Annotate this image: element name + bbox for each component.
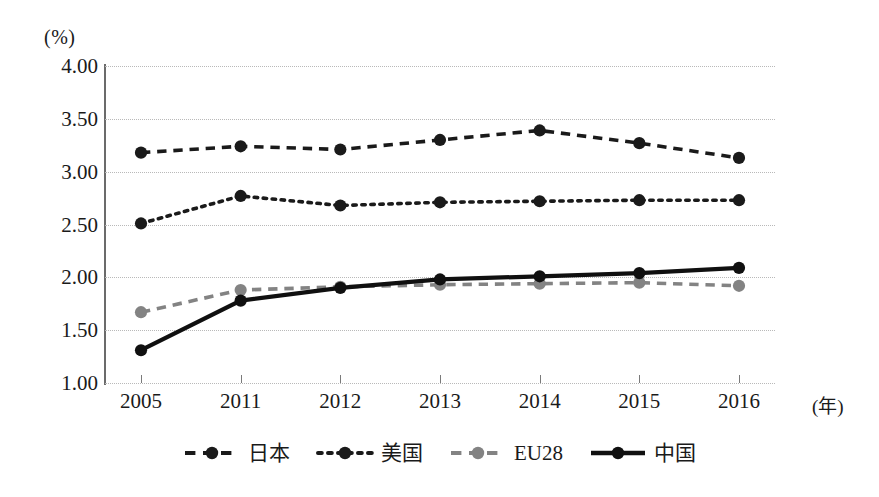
- x-axis-tick-label: 2012: [319, 389, 361, 414]
- y-axis-tick-label: 2.50: [61, 214, 98, 235]
- legend-marker-icon: [449, 444, 507, 462]
- series-2: [135, 190, 745, 230]
- chart-legend: 日本美国EU28中国: [0, 432, 879, 474]
- legend-label: 美国: [381, 443, 423, 464]
- y-axis-tick-label: 1.50: [61, 320, 98, 341]
- x-axis-tick-label: 2015: [618, 389, 660, 414]
- legend-label: 日本: [248, 443, 290, 464]
- data-point: [633, 137, 645, 149]
- data-point: [633, 267, 645, 279]
- legend-item-3[interactable]: EU28: [449, 443, 563, 464]
- data-point: [534, 124, 546, 136]
- x-axis-tick-label: 2014: [519, 389, 561, 414]
- data-point: [135, 344, 147, 356]
- data-point: [733, 152, 745, 164]
- data-point: [235, 294, 247, 306]
- data-point: [334, 143, 346, 155]
- data-point: [135, 217, 147, 229]
- x-axis-tick-label: 2016: [718, 389, 760, 414]
- data-point: [334, 199, 346, 211]
- data-point: [235, 140, 247, 152]
- x-axis-tick-labels: 2005201120122013201420152016: [0, 389, 879, 419]
- data-point: [135, 306, 147, 318]
- data-point: [633, 194, 645, 206]
- legend-marker-icon: [183, 444, 241, 462]
- data-point: [434, 134, 446, 146]
- data-point: [733, 262, 745, 274]
- legend-marker-icon: [316, 444, 374, 462]
- data-point: [235, 190, 247, 202]
- x-axis-tick-label: 2011: [220, 389, 261, 414]
- legend-label: 中国: [654, 443, 696, 464]
- series-layer: [105, 66, 775, 383]
- data-point: [434, 196, 446, 208]
- data-point: [733, 194, 745, 206]
- data-point: [534, 195, 546, 207]
- data-point: [235, 284, 247, 296]
- y-axis-tick-label: 3.00: [61, 161, 98, 182]
- legend-item-2[interactable]: 美国: [316, 443, 423, 464]
- data-point: [135, 147, 147, 159]
- legend-marker-icon: [589, 444, 647, 462]
- y-axis-tick-label: 2.00: [61, 267, 98, 288]
- x-axis-tick-label: 2013: [419, 389, 461, 414]
- plot-area: [105, 66, 775, 383]
- legend-item-4[interactable]: 中国: [589, 443, 696, 464]
- chart-figure: (%) 4.003.503.002.502.001.501.00 2005201…: [0, 0, 879, 497]
- data-point: [434, 273, 446, 285]
- data-point: [733, 280, 745, 292]
- series-4: [135, 262, 745, 357]
- series-1: [135, 124, 745, 164]
- x-axis-unit-label: (年): [812, 391, 844, 418]
- y-axis-unit-label: (%): [44, 26, 75, 49]
- x-axis-tick-label: 2005: [120, 389, 162, 414]
- y-axis-tick-labels: 4.003.503.002.502.001.501.00: [36, 66, 98, 383]
- gridline: [105, 383, 775, 384]
- data-point: [534, 270, 546, 282]
- legend-label: EU28: [514, 443, 563, 464]
- data-point: [334, 282, 346, 294]
- y-axis-tick-label: 3.50: [61, 108, 98, 129]
- y-axis-tick-label: 4.00: [61, 56, 98, 77]
- legend-item-1[interactable]: 日本: [183, 443, 290, 464]
